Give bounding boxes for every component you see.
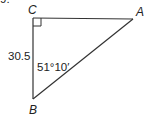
side-CA <box>33 18 133 19</box>
triangle-diagram: 9. C A B 30.5 51°10′ <box>0 0 145 118</box>
vertex-label-C: C <box>28 3 37 17</box>
vertex-label-B: B <box>29 103 37 117</box>
side-AB-hypotenuse <box>33 19 133 99</box>
side-CB-length-label: 30.5 <box>8 50 30 62</box>
angle-B-label: 51°10′ <box>37 61 69 73</box>
right-angle-marker-icon <box>33 18 41 26</box>
problem-number-fragment: 9. <box>0 0 10 5</box>
vertex-label-A: A <box>135 5 144 19</box>
